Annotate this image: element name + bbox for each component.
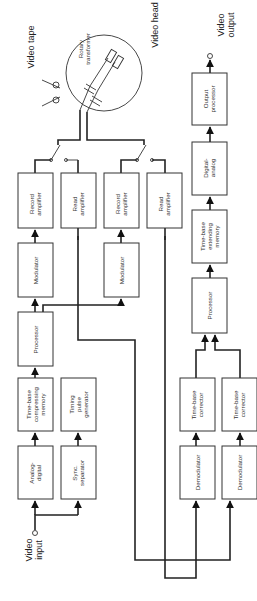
label-processor-record: Processor: [32, 310, 39, 370]
label-output-processor: Output processor: [202, 69, 216, 129]
label-record-amp-2: Record amplifier: [114, 174, 128, 234]
label-video-output: Video output: [216, 0, 236, 55]
label-rotary-transformer: Rotary transformer: [77, 19, 91, 79]
label-tb-extending-memory: Time-base extending memory: [199, 207, 220, 267]
label-read-amp-2: Read amplifier: [157, 174, 171, 234]
label-video-tape: Video tape: [26, 17, 36, 77]
label-analog-digital: Analog- digital: [28, 443, 42, 503]
label-tb-compressing-memory: Time-base compressing memory: [25, 375, 46, 435]
label-digital-analog: Digital- analog: [202, 138, 216, 198]
video-output-terminal: [208, 54, 213, 59]
label-video-head: Video head: [150, 0, 160, 55]
label-video-input: Video input: [24, 520, 44, 580]
label-tb-corrector-1: Time-base corrector: [190, 375, 204, 435]
label-modulator-2: Modulator: [118, 241, 125, 301]
label-demodulator-2: Demodulator: [236, 443, 243, 503]
label-tb-corrector-2: Time-base corrector: [232, 375, 246, 435]
label-timing-pulse-generator: Timing pulse generator: [68, 375, 89, 435]
block-diagram: [0, 0, 257, 601]
label-modulator-1: Modulator: [32, 241, 39, 301]
label-sync-separator: Sync. separator: [71, 443, 85, 503]
label-record-amp-1: Record amplifier: [28, 174, 42, 234]
label-demodulator-1: Demodulator: [194, 443, 201, 503]
video-head-drum: [42, 35, 142, 112]
label-read-amp-1: Read amplifier: [71, 174, 85, 234]
label-processor-playback: Processor: [206, 276, 213, 336]
